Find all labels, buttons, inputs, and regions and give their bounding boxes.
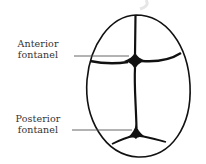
anterior-fontanel-label: Anterior fontanel xyxy=(8,38,68,60)
anterior-label-line1: Anterior xyxy=(8,38,68,49)
anterior-fontanel xyxy=(124,52,146,70)
fetal-skull-diagram: Anterior fontanel Posterior fontanel xyxy=(0,0,206,164)
posterior-label-line1: Posterior xyxy=(8,113,68,124)
posterior-label-line2: fontanel xyxy=(8,124,68,135)
lambdoid-suture xyxy=(112,136,166,144)
watermark-arc xyxy=(140,0,147,9)
anterior-label-line2: fontanel xyxy=(8,49,68,60)
sagittal-suture xyxy=(135,15,137,128)
skull-illustration xyxy=(0,0,206,164)
posterior-fontanel-label: Posterior fontanel xyxy=(8,113,68,135)
